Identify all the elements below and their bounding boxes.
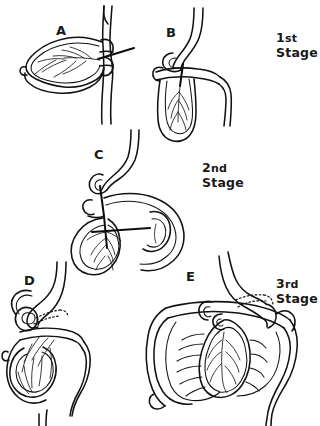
stage-2-suffix: nd bbox=[211, 162, 227, 175]
stage-1-number: 1 bbox=[276, 30, 285, 45]
stage-label-3: 3rd Stage bbox=[276, 276, 318, 307]
stage-3-ordinal: 3rd bbox=[276, 276, 318, 291]
stage-2-ordinal: 2nd bbox=[202, 160, 244, 175]
panel-label-d: D bbox=[24, 274, 35, 287]
stage-2-word: Stage bbox=[202, 175, 244, 190]
stage-label-2: 2nd Stage bbox=[202, 160, 244, 191]
panel-a-collar-tick-upper bbox=[100, 51, 113, 52]
panel-label-e: E bbox=[186, 270, 195, 283]
panel-a-collar-tick-lower bbox=[100, 65, 113, 66]
stage-3-suffix: rd bbox=[285, 278, 299, 291]
stage-3-number: 3 bbox=[276, 276, 285, 291]
panel-label-a: A bbox=[56, 24, 67, 37]
stage-3-word: Stage bbox=[276, 291, 318, 306]
midgut-rotation-illustration bbox=[0, 0, 320, 426]
stage-1-suffix: st bbox=[285, 32, 297, 45]
stage-2-number: 2 bbox=[202, 160, 211, 175]
stage-1-word: Stage bbox=[276, 45, 318, 60]
panel-label-b: B bbox=[166, 26, 176, 39]
stage-label-1: 1st Stage bbox=[276, 30, 318, 61]
stage-1-ordinal: 1st bbox=[276, 30, 318, 45]
panel-label-c: C bbox=[94, 148, 104, 161]
figure-root: A B C D E 1st Stage 2nd Stage 3rd Stage bbox=[0, 0, 320, 426]
